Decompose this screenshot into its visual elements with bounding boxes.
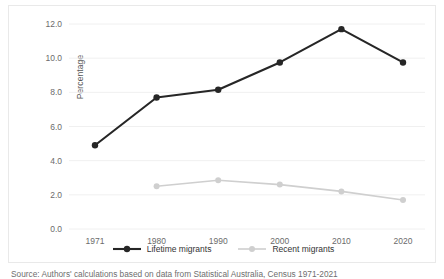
y-tick-label: 6.0	[50, 122, 62, 132]
y-tick-label: 4.0	[50, 156, 62, 166]
data-point[interactable]	[338, 188, 344, 194]
data-point[interactable]	[400, 59, 406, 65]
data-point[interactable]	[400, 197, 406, 203]
figure: Percentage 0.02.04.06.08.010.012.0 19711…	[0, 0, 444, 279]
legend-label: Lifetime migrants	[147, 244, 212, 254]
legend-label: Recent migrants	[272, 244, 334, 254]
data-point[interactable]	[277, 182, 283, 188]
data-point[interactable]	[92, 142, 98, 148]
y-tick-label: 10.0	[45, 53, 62, 63]
chart-legend: Lifetime migrantsRecent migrants	[9, 244, 437, 254]
y-tick-label: 12.0	[45, 19, 62, 29]
plot-area: Percentage 0.02.04.06.08.010.012.0 19711…	[69, 24, 425, 229]
series-layer	[92, 26, 406, 203]
series-line	[95, 29, 403, 145]
y-tick-label: 8.0	[50, 87, 62, 97]
data-point[interactable]	[154, 183, 160, 189]
data-point[interactable]	[215, 87, 221, 93]
data-point[interactable]	[215, 177, 221, 183]
gridlines	[69, 24, 425, 229]
y-tick-label: 2.0	[50, 190, 62, 200]
legend-swatch-icon	[112, 244, 142, 254]
y-tick-label: 0.0	[50, 224, 62, 234]
source-caption: Source: Authors' calculations based on d…	[11, 269, 441, 279]
data-point[interactable]	[277, 59, 283, 65]
chart-card: Percentage 0.02.04.06.08.010.012.0 19711…	[8, 5, 436, 263]
legend-item[interactable]: Recent migrants	[237, 244, 334, 254]
legend-item[interactable]: Lifetime migrants	[112, 244, 212, 254]
line-chart-canvas	[69, 24, 425, 229]
data-point[interactable]	[338, 26, 344, 32]
data-point[interactable]	[153, 94, 159, 100]
legend-swatch-icon	[237, 244, 267, 254]
